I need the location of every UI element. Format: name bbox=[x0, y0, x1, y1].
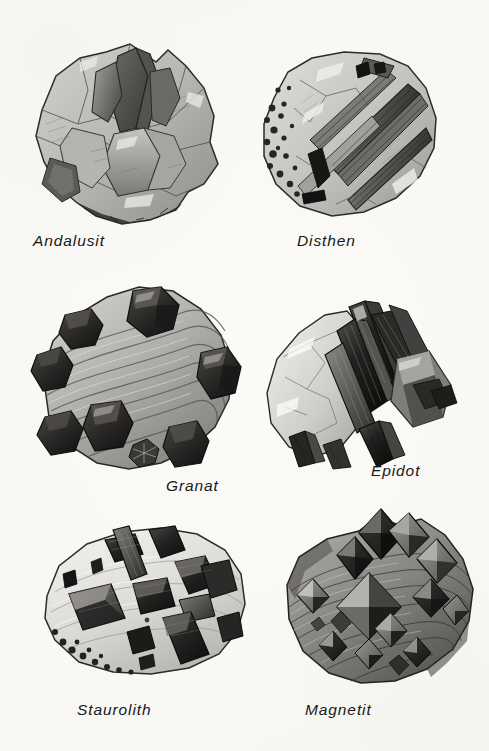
specimen-image-andalusit bbox=[18, 32, 230, 228]
specimen-image-epidot bbox=[263, 297, 461, 469]
specimen-label-andalusit: Andalusit bbox=[33, 233, 105, 249]
specimen-label-staurolith: Staurolith bbox=[77, 702, 151, 718]
specimen-label-magnetit: Magnetit bbox=[305, 702, 372, 718]
specimen-image-staurolith bbox=[39, 522, 249, 690]
specimen-label-epidot: Epidot bbox=[371, 463, 420, 479]
specimen-image-disthen bbox=[240, 44, 446, 228]
mineral-plate: Andalusit bbox=[0, 0, 489, 751]
specimen-label-granat: Granat bbox=[166, 478, 219, 494]
specimen-image-magnetit bbox=[281, 511, 477, 689]
specimen-image-granat bbox=[29, 277, 244, 475]
specimen-label-disthen: Disthen bbox=[297, 233, 356, 249]
